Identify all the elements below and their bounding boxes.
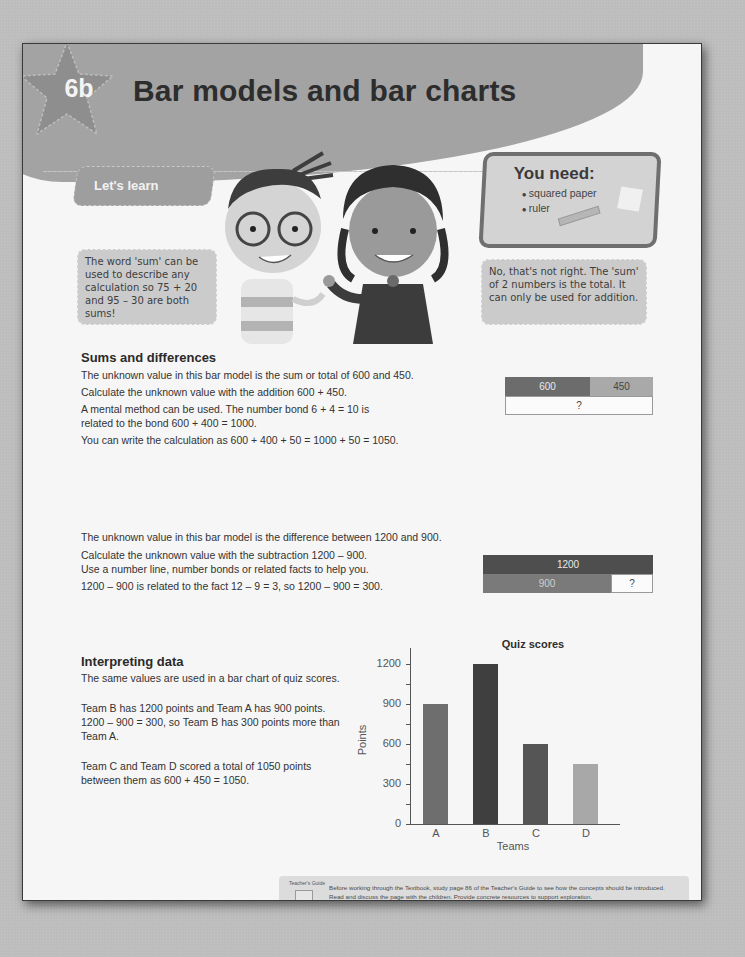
tick xyxy=(406,824,410,825)
y-tick-label: 300 xyxy=(367,777,401,789)
bar-whole-1200: 1200 xyxy=(483,555,653,574)
y-tick-label: 600 xyxy=(367,737,401,749)
paragraph: The unknown value in this bar model is t… xyxy=(81,368,511,382)
squared-paper-icon xyxy=(617,187,643,212)
y-tick-label: 900 xyxy=(367,697,401,709)
bar-team-a xyxy=(423,704,448,824)
paragraph: Team C and Team D scored a total of 1050… xyxy=(81,759,341,787)
x-tick-label: B xyxy=(473,827,499,839)
bar-team-b xyxy=(473,664,498,824)
speech-bubble-boy: The word 'sum' can be used to describe a… xyxy=(77,249,217,325)
y-axis-label: Points xyxy=(356,725,368,756)
x-tick-label: A xyxy=(423,827,449,839)
book-icon xyxy=(295,890,313,901)
speech-bubble-girl: No, that's not right. The 'sum' of 2 num… xyxy=(481,259,647,325)
y-tick-label: 0 xyxy=(367,817,401,829)
paragraph: The unknown value in this bar model is t… xyxy=(81,530,641,544)
page-number-value: 72 xyxy=(41,899,57,901)
tick xyxy=(406,684,410,685)
bar-part-unknown: ? xyxy=(611,574,653,593)
tick xyxy=(406,784,410,785)
lets-learn-tag: Let's learn xyxy=(72,166,216,206)
bar-part-900: 900 xyxy=(483,574,611,593)
tick xyxy=(406,704,410,705)
x-tick-label: D xyxy=(573,827,599,839)
star-small-icon: ★ xyxy=(29,900,41,901)
x-tick-label: C xyxy=(523,827,549,839)
textbook-page: 6b Bar models and bar charts Let's learn… xyxy=(22,43,702,901)
paragraph: The same values are used in a bar chart … xyxy=(81,671,341,685)
section-heading-sums: Sums and differences xyxy=(81,350,216,365)
paragraph: You can write the calculation as 600 + 4… xyxy=(81,433,511,447)
lets-learn-label: Let's learn xyxy=(76,167,212,205)
teachers-guide-label: Teacher's Guide xyxy=(289,880,325,886)
x-axis-label: Teams xyxy=(473,840,553,852)
teachers-guide-note: Teacher's Guide Before working through t… xyxy=(279,876,689,901)
quiz-scores-chart: Quiz scores 0 300 600 900 1200 Points A … xyxy=(353,634,613,864)
paragraph: Team B has 1200 points and Team A has 90… xyxy=(81,701,341,743)
section-heading-interpreting: Interpreting data xyxy=(81,654,184,669)
y-tick-label: 1200 xyxy=(367,657,401,669)
bar-part-450: 450 xyxy=(590,377,653,396)
bar-team-d xyxy=(573,764,598,824)
interpret-paragraphs: The same values are used in a bar chart … xyxy=(81,671,341,790)
page-number: ★72 xyxy=(29,899,56,901)
tick xyxy=(406,664,410,665)
page-title: Bar models and bar charts xyxy=(133,74,516,108)
you-need-box: You need: squared paper ruler xyxy=(478,152,661,248)
children-illustration xyxy=(203,149,473,344)
chart-title: Quiz scores xyxy=(423,638,643,650)
sums-paragraphs: The unknown value in this bar model is t… xyxy=(81,368,511,450)
bar-team-c xyxy=(523,744,548,824)
tick xyxy=(406,804,410,805)
tick xyxy=(406,764,410,765)
teachers-guide-text: Before working through the Textbook, stu… xyxy=(329,884,679,901)
you-need-heading: You need: xyxy=(514,164,656,184)
tick xyxy=(406,744,410,745)
bar-whole-unknown: ? xyxy=(505,396,653,415)
y-axis xyxy=(410,648,411,825)
lesson-number: 6b xyxy=(53,74,105,103)
paragraph: A mental method can be used. The number … xyxy=(81,402,381,430)
bar-model-difference: 1200 900 ? xyxy=(483,555,653,593)
bar-model-sum: 600 450 ? xyxy=(505,377,653,415)
bar-part-600: 600 xyxy=(505,377,590,396)
paragraph: Calculate the unknown value with the add… xyxy=(81,385,511,399)
x-axis xyxy=(410,824,620,825)
tick xyxy=(406,724,410,725)
